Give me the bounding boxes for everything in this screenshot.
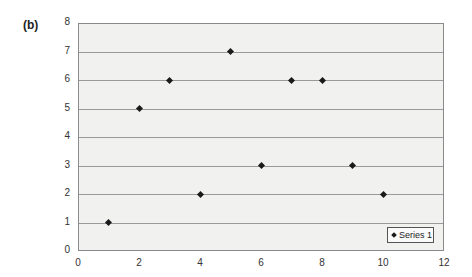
panel-label: (b) xyxy=(23,18,38,32)
x-tick-label: 8 xyxy=(307,257,337,268)
x-tick-label: 12 xyxy=(429,257,459,268)
diamond-marker-icon xyxy=(391,232,397,238)
y-tick-label: 8 xyxy=(50,16,70,27)
data-point xyxy=(196,190,203,197)
gridline xyxy=(79,194,443,195)
y-tick-label: 0 xyxy=(50,244,70,255)
x-tick-label: 10 xyxy=(368,257,398,268)
data-point xyxy=(318,76,325,83)
x-tick-label: 0 xyxy=(63,257,93,268)
x-tick-label: 2 xyxy=(124,257,154,268)
data-point xyxy=(135,105,142,112)
data-point xyxy=(379,190,386,197)
y-tick-label: 2 xyxy=(50,187,70,198)
gridline xyxy=(79,52,443,53)
data-point xyxy=(105,219,112,226)
legend: Series 1 xyxy=(387,227,434,243)
data-point xyxy=(288,76,295,83)
legend-label: Series 1 xyxy=(399,230,432,240)
y-tick-label: 6 xyxy=(50,73,70,84)
data-point xyxy=(257,162,264,169)
x-tick-label: 6 xyxy=(246,257,276,268)
gridline xyxy=(79,109,443,110)
y-tick-label: 3 xyxy=(50,159,70,170)
gridline xyxy=(79,223,443,224)
gridline xyxy=(79,80,443,81)
y-tick-label: 1 xyxy=(50,216,70,227)
gridline xyxy=(79,137,443,138)
y-tick-label: 7 xyxy=(50,45,70,56)
plot-area xyxy=(78,23,444,251)
y-tick-label: 4 xyxy=(50,130,70,141)
data-point xyxy=(227,48,234,55)
data-point xyxy=(349,162,356,169)
x-tick-label: 4 xyxy=(185,257,215,268)
y-tick-label: 5 xyxy=(50,102,70,113)
data-point xyxy=(166,76,173,83)
